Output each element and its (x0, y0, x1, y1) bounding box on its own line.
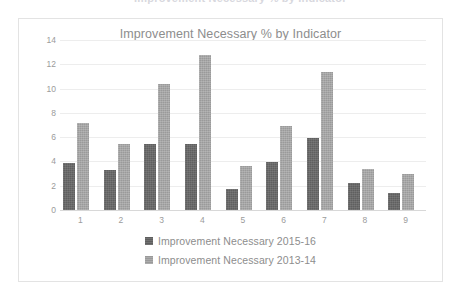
x-axis-tick-label: 5 (223, 215, 264, 225)
bars-layer (60, 40, 426, 210)
chart-legend: Improvement Necessary 2015-16Improvement… (19, 231, 442, 269)
chart-title: Improvement Necessary % by Indicator (19, 27, 442, 41)
legend-swatch-icon (145, 237, 153, 245)
y-axis-tick-label: 2 (38, 181, 56, 191)
bar (362, 169, 374, 210)
y-axis-tick-label: 4 (38, 156, 56, 166)
x-axis-tick-label: 2 (101, 215, 142, 225)
clipped-header-strip: Improvement Necessary % by Indicator (0, 0, 462, 13)
bar (348, 183, 360, 210)
x-axis-tick-label: 3 (141, 215, 182, 225)
bar (266, 162, 278, 210)
bar-group (385, 40, 426, 210)
y-axis-tick-label: 10 (38, 84, 56, 94)
bar-group (60, 40, 101, 210)
chart-container: Improvement Necessary % by Indicator 024… (18, 18, 443, 282)
x-axis: 123456789 (60, 215, 426, 231)
bar (226, 189, 238, 210)
legend-item[interactable]: Improvement Necessary 2015-16 (19, 231, 442, 250)
y-axis-tick-label: 6 (38, 132, 56, 142)
bar-group (101, 40, 142, 210)
bar (158, 84, 170, 210)
legend-item-inner: Improvement Necessary 2013-14 (145, 254, 316, 266)
plot-region: 02468101214 (38, 40, 426, 210)
bar (118, 144, 130, 210)
bar (240, 166, 252, 210)
bar-group (223, 40, 264, 210)
legend-swatch-icon (145, 256, 153, 264)
y-axis-tick-label: 12 (38, 59, 56, 69)
plot-area (60, 40, 426, 210)
bar-group (345, 40, 386, 210)
clipped-header-text: Improvement Necessary % by Indicator (134, 0, 347, 4)
bar-group (263, 40, 304, 210)
bar (199, 55, 211, 210)
bar (307, 138, 319, 210)
bar (77, 123, 89, 210)
legend-label: Improvement Necessary 2013-14 (158, 254, 316, 266)
bar-group (182, 40, 223, 210)
bar (63, 163, 75, 210)
y-axis-tick-label: 14 (38, 35, 56, 45)
bar (280, 126, 292, 210)
y-axis-tick-label: 8 (38, 108, 56, 118)
bar (402, 174, 414, 210)
legend-label: Improvement Necessary 2015-16 (158, 235, 316, 247)
y-axis: 02468101214 (38, 40, 56, 210)
bar (185, 144, 197, 210)
x-axis-tick-label: 1 (60, 215, 101, 225)
legend-item-inner: Improvement Necessary 2015-16 (145, 235, 316, 247)
bar (104, 170, 116, 210)
bar (144, 144, 156, 210)
bar (388, 193, 400, 210)
x-axis-tick-label: 8 (345, 215, 386, 225)
x-axis-tick-label: 6 (263, 215, 304, 225)
bar (321, 72, 333, 210)
bar-group (304, 40, 345, 210)
legend-item[interactable]: Improvement Necessary 2013-14 (19, 250, 442, 269)
axis-baseline (60, 210, 426, 211)
x-axis-tick-label: 7 (304, 215, 345, 225)
x-axis-tick-label: 9 (385, 215, 426, 225)
y-axis-tick-label: 0 (38, 205, 56, 215)
bar-group (141, 40, 182, 210)
x-axis-tick-label: 4 (182, 215, 223, 225)
